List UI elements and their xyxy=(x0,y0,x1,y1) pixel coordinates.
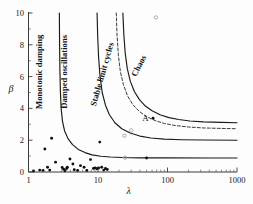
annotation-label-a: A xyxy=(142,113,149,123)
y-tick-label: 0 xyxy=(20,167,24,177)
data-point xyxy=(152,117,155,120)
data-point xyxy=(106,168,109,171)
data-point xyxy=(50,137,53,140)
x-axis-title: λ xyxy=(126,185,132,196)
data-point xyxy=(38,169,41,172)
boundary-curve xyxy=(97,13,237,140)
data-point xyxy=(79,164,82,167)
chart-figure: 02468101101001000 Monotonic dampingDampe… xyxy=(0,0,253,204)
y-tick-label: 8 xyxy=(20,40,24,50)
x-tick-label: 1000 xyxy=(229,175,246,185)
boundary-curve xyxy=(59,13,237,158)
y-tick-label: 10 xyxy=(16,8,25,18)
data-point xyxy=(46,166,49,169)
data-point xyxy=(83,166,86,169)
data-point xyxy=(66,166,69,169)
data-point xyxy=(85,169,88,172)
scatter-filled-points xyxy=(32,117,154,173)
x-tick-label: 100 xyxy=(161,175,174,185)
y-tick-label: 6 xyxy=(20,72,24,82)
y-axis-title: β xyxy=(8,83,14,94)
y-axis-ticks xyxy=(29,13,33,172)
data-point xyxy=(73,168,76,171)
data-point xyxy=(43,147,46,150)
annotation-labels: A xyxy=(142,113,149,123)
data-point-open xyxy=(154,16,157,19)
x-tick-label: 1 xyxy=(26,175,30,185)
data-point xyxy=(42,169,45,172)
region-label: Chaos xyxy=(129,53,149,79)
data-point xyxy=(48,169,51,172)
x-axis-ticks xyxy=(29,168,238,173)
plot-area: 02468101101001000 Monotonic dampingDampe… xyxy=(0,0,253,204)
data-point xyxy=(100,166,103,169)
data-point xyxy=(69,158,72,161)
data-point xyxy=(71,163,74,166)
region-label: Damped oscillations xyxy=(59,34,69,108)
data-point xyxy=(32,170,35,173)
region-label: Monotonic damping xyxy=(34,34,44,109)
data-point xyxy=(89,158,92,161)
data-point-open xyxy=(129,129,132,132)
data-point xyxy=(98,141,101,144)
y-tick-label: 4 xyxy=(20,103,25,113)
data-point xyxy=(97,167,100,170)
x-tick-label: 10 xyxy=(94,175,103,185)
data-point xyxy=(76,169,79,172)
boundary-curves xyxy=(59,13,237,158)
y-tick-label: 2 xyxy=(20,135,24,145)
region-labels: Monotonic dampingDamped oscillationsStab… xyxy=(34,34,149,109)
region-label: Stable limit cycles xyxy=(88,41,116,108)
data-point xyxy=(54,161,57,164)
data-point-open xyxy=(123,134,126,137)
data-point xyxy=(145,157,148,160)
